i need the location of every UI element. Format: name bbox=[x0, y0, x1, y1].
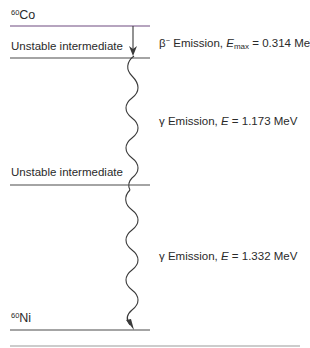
gamma-wave-1-icon bbox=[126, 56, 138, 190]
transition-label-beta: β− Emission, Emax = 0.314 MeV bbox=[159, 37, 310, 51]
transition-label-gamma-2: γ Emission, E = 1.332 MeV bbox=[159, 251, 297, 263]
level-label-intermediate-1: Unstable intermediate bbox=[11, 41, 123, 53]
level-label-co60: 60Co bbox=[11, 9, 35, 22]
gamma-wave-2-icon bbox=[126, 190, 138, 325]
level-label-ni60: 60Ni bbox=[11, 312, 31, 325]
gamma-arrowhead-icon bbox=[126, 319, 134, 330]
beta-arrow-icon bbox=[129, 26, 137, 56]
transition-label-gamma-1: γ Emission, E = 1.173 MeV bbox=[159, 116, 297, 128]
level-label-intermediate-2: Unstable intermediate bbox=[11, 167, 123, 179]
